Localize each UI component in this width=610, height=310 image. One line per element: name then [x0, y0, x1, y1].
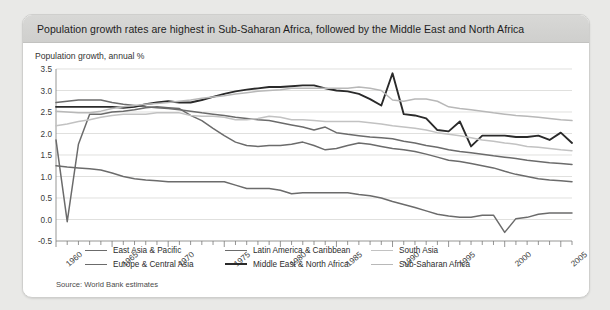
legend-swatch-icon — [371, 264, 393, 265]
y-axis-tick-label: 1.0 — [41, 172, 52, 181]
plot-area: -0.50.00.51.01.52.02.53.03.5196019651970… — [56, 69, 572, 241]
legend-label: Europe & Central Asia — [113, 260, 194, 269]
y-axis-title: Population growth, annual % — [35, 51, 144, 61]
chart-body: Population growth, annual % -0.50.00.51.… — [23, 43, 589, 296]
legend-label: Latin America & Caribbean — [253, 246, 350, 255]
x-axis-tick-label: 2000 — [513, 250, 533, 269]
series-line-europe-central-asia — [56, 166, 572, 233]
x-axis-tick-label: 2005 — [569, 250, 589, 269]
legend-swatch-icon — [85, 264, 107, 265]
legend-item[interactable]: Sub-Saharan Africa — [371, 260, 481, 269]
y-axis-tick-label: 3.5 — [41, 65, 52, 74]
legend-label: East Asia & Pacific — [113, 246, 181, 255]
series-line-east-asia-pacific — [56, 107, 572, 222]
legend-item[interactable]: Latin America & Caribbean — [225, 246, 371, 255]
y-axis-tick-label: 2.5 — [41, 108, 52, 117]
legend-swatch-icon — [225, 263, 247, 265]
y-axis-tick-label: 1.5 — [41, 151, 52, 160]
legend-swatch-icon — [85, 250, 107, 251]
page-title: Population growth rates are highest in S… — [37, 23, 524, 35]
y-axis-tick-label: 2.0 — [41, 129, 52, 138]
chart-card: Population growth rates are highest in S… — [22, 14, 590, 298]
legend-row: Europe & Central AsiaMiddle East & North… — [85, 257, 485, 271]
legend-item[interactable]: Middle East & North Africa — [225, 260, 371, 269]
legend-swatch-icon — [371, 250, 393, 251]
legend-label: Middle East & North Africa — [253, 260, 349, 269]
y-axis-tick-label: 3.0 — [41, 86, 52, 95]
x-axis-tick-label: 1960 — [64, 250, 84, 269]
chart-svg — [56, 69, 572, 241]
legend-label: South Asia — [399, 246, 438, 255]
legend-item[interactable]: East Asia & Pacific — [85, 246, 225, 255]
legend-item[interactable]: Europe & Central Asia — [85, 260, 225, 269]
legend-row: East Asia & PacificLatin America & Carib… — [85, 243, 485, 257]
y-axis-tick-label: 0.5 — [41, 194, 52, 203]
legend-swatch-icon — [225, 250, 247, 251]
source-note: Source: World Bank estimates — [56, 280, 158, 289]
chart-title-bar: Population growth rates are highest in S… — [23, 15, 589, 43]
chart-legend: East Asia & PacificLatin America & Carib… — [85, 243, 485, 271]
y-axis-tick-label: 0.0 — [41, 215, 52, 224]
legend-item[interactable]: South Asia — [371, 246, 481, 255]
legend-label: Sub-Saharan Africa — [399, 260, 470, 269]
series-line-sub-saharan-africa — [56, 87, 572, 121]
y-axis-tick-label: -0.5 — [38, 237, 52, 246]
